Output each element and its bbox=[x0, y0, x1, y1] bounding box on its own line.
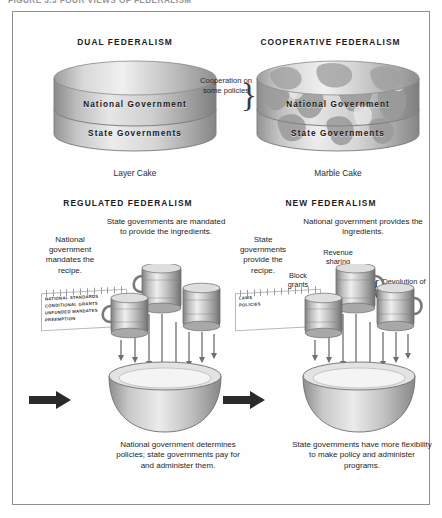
figure-page: FIGURE 3.3 FOUR VIEWS OF FEDERALISM DUAL… bbox=[0, 0, 442, 518]
caption-marble-cake: Marble Cake bbox=[253, 168, 423, 178]
process-arrow-icon-new-federalism bbox=[223, 390, 265, 410]
marble-cake-icon: National Government State Governments bbox=[253, 60, 423, 156]
process-arrow-icon-regulated bbox=[29, 390, 71, 410]
figure-title: FIGURE 3.3 FOUR VIEWS OF FEDERALISM bbox=[8, 0, 428, 6]
regulated-left-note: National government mandates the recipe. bbox=[35, 235, 105, 276]
panel-header-cooperative-federalism: COOPERATIVE FEDERALISM bbox=[228, 37, 433, 47]
figure-box: DUAL FEDERALISM COOPERATIVE FEDERALISM R… bbox=[12, 11, 430, 505]
recipe-card-list-regulated: NATIONAL STANDARDS CONDITIONAL GRANTS UN… bbox=[45, 294, 98, 324]
regulated-conclusion: National government determines policies;… bbox=[109, 440, 247, 471]
measuring-cup-icon bbox=[103, 293, 148, 338]
panel-header-regulated-federalism: REGULATED FEDERALISM bbox=[33, 198, 223, 208]
regulated-mixing-illustration bbox=[99, 264, 231, 436]
new-federalism-mixing-illustration bbox=[293, 264, 425, 436]
measuring-cup-icon bbox=[336, 264, 383, 313]
new-federalism-right-note: National government provides the ingredi… bbox=[293, 217, 433, 237]
new-federalism-left-note: State governments provide the recipe. bbox=[232, 235, 294, 276]
recipe-card-list-new-federalism: LAWS POLICIES bbox=[239, 294, 261, 309]
layer-cake-icon: National Government State Governments bbox=[50, 60, 220, 156]
measuring-cup-icon bbox=[305, 293, 342, 338]
mixing-bowl-icon bbox=[303, 362, 415, 432]
recipe-item: POLICIES bbox=[239, 301, 261, 309]
panel-header-new-federalism: NEW FEDERALISM bbox=[231, 198, 431, 208]
new-federalism-conclusion: State governments have more flexibility … bbox=[291, 440, 433, 471]
caption-layer-cake: Layer Cake bbox=[50, 168, 220, 178]
regulated-right-note: State governments are mandated to provid… bbox=[105, 217, 227, 237]
cooperation-brace-icon: } bbox=[241, 74, 253, 116]
panel-header-dual-federalism: DUAL FEDERALISM bbox=[35, 37, 215, 47]
measuring-cup-icon bbox=[377, 283, 422, 331]
mixing-bowl-icon bbox=[109, 362, 221, 432]
measuring-cup-icon bbox=[183, 283, 220, 331]
